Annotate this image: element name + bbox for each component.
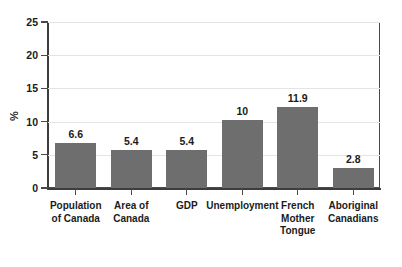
y-tick-mark xyxy=(41,154,48,155)
y-tick-mark xyxy=(41,55,48,56)
x-tick-mark xyxy=(242,189,243,195)
x-tick-mark xyxy=(75,189,76,195)
bar xyxy=(333,168,374,188)
bar-value-label: 6.6 xyxy=(46,129,106,140)
y-tick-mark xyxy=(41,121,48,122)
x-axis-line xyxy=(47,188,381,190)
y-axis-line xyxy=(47,22,49,189)
x-tick-mark xyxy=(186,189,187,195)
bar-value-label: 5.4 xyxy=(101,136,161,147)
bar xyxy=(111,150,152,188)
bar-value-label: 10 xyxy=(212,106,272,117)
y-tick-label: 20 xyxy=(14,50,38,60)
bar xyxy=(277,107,318,188)
gridline xyxy=(48,55,380,56)
y-tick-mark xyxy=(41,187,48,188)
bar-chart-figure: % 0510152025 6.65.45.41011.92.8 Populati… xyxy=(0,0,402,267)
bar xyxy=(55,143,96,188)
x-tick-mark xyxy=(297,189,298,195)
y-tick-label: 25 xyxy=(14,17,38,27)
gridline xyxy=(48,88,380,89)
bar-value-label: 11.9 xyxy=(268,93,328,104)
y-tick-label: 0 xyxy=(14,183,38,193)
bar xyxy=(222,120,263,188)
gridline xyxy=(48,22,380,23)
bar xyxy=(166,150,207,188)
x-tick-mark xyxy=(353,189,354,195)
x-tick-mark xyxy=(131,189,132,195)
y-tick-label: 15 xyxy=(14,83,38,93)
category-label: Aboriginal Canadians xyxy=(317,200,389,225)
y-tick-label: 5 xyxy=(14,150,38,160)
gridline xyxy=(48,122,380,123)
y-tick-mark xyxy=(41,21,48,22)
bar-value-label: 5.4 xyxy=(157,136,217,147)
y-tick-mark xyxy=(41,88,48,89)
bar-value-label: 2.8 xyxy=(323,154,383,165)
y-tick-label: 10 xyxy=(14,117,38,127)
